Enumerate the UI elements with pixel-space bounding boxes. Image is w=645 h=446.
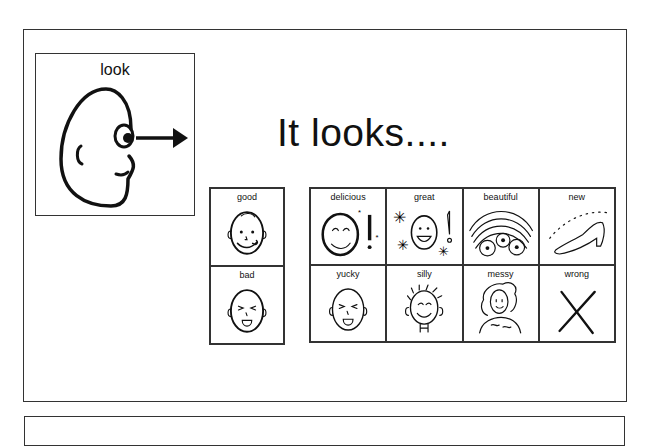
symbol-card-delicious[interactable]: delicious **: [310, 188, 386, 265]
cross-x-icon: [540, 278, 614, 339]
symbol-card-wrong[interactable]: wrong: [539, 265, 615, 342]
symbol-card-great[interactable]: great ✳✳✳: [386, 188, 462, 265]
symbol-card-good[interactable]: good: [210, 188, 284, 266]
face-yummy-exclaim-icon: **: [311, 201, 385, 262]
good-bad-column: good bad: [209, 187, 285, 345]
messy-hair-person-icon: [464, 278, 538, 339]
symbol-card-silly[interactable]: silly: [386, 265, 462, 342]
face-looking-arrow-icon: [36, 54, 196, 217]
rainbow-flowers-icon: [464, 201, 538, 262]
svg-text:✳: ✳: [393, 209, 406, 226]
smiley-stars-exclaim-icon: ✳✳✳: [387, 201, 461, 262]
answer-panel: [24, 416, 625, 446]
svg-text:*: *: [358, 208, 361, 217]
symbol-card-beautiful[interactable]: beautiful: [463, 188, 539, 265]
svg-text:*: *: [375, 233, 378, 242]
svg-text:✳: ✳: [438, 245, 449, 259]
symbol-card-new[interactable]: new: [539, 188, 615, 265]
worksheet-title: It looks....: [277, 111, 450, 155]
face-licking-lips-icon: [211, 201, 283, 263]
svg-text:✳: ✳: [397, 238, 409, 253]
face-yucky-icon: [311, 278, 385, 339]
symbol-card-yucky[interactable]: yucky: [310, 265, 386, 342]
sparkling-shoe-icon: [540, 201, 614, 262]
symbol-card-messy[interactable]: messy: [463, 265, 539, 342]
symbol-card-bad[interactable]: bad: [210, 266, 284, 344]
face-silly-hair-icon: [387, 278, 461, 339]
look-card: look: [35, 53, 195, 216]
face-tongue-out-disgust-icon: [211, 279, 283, 341]
adjective-symbol-grid: delicious ** great ✳✳✳ beautiful new: [309, 187, 616, 343]
